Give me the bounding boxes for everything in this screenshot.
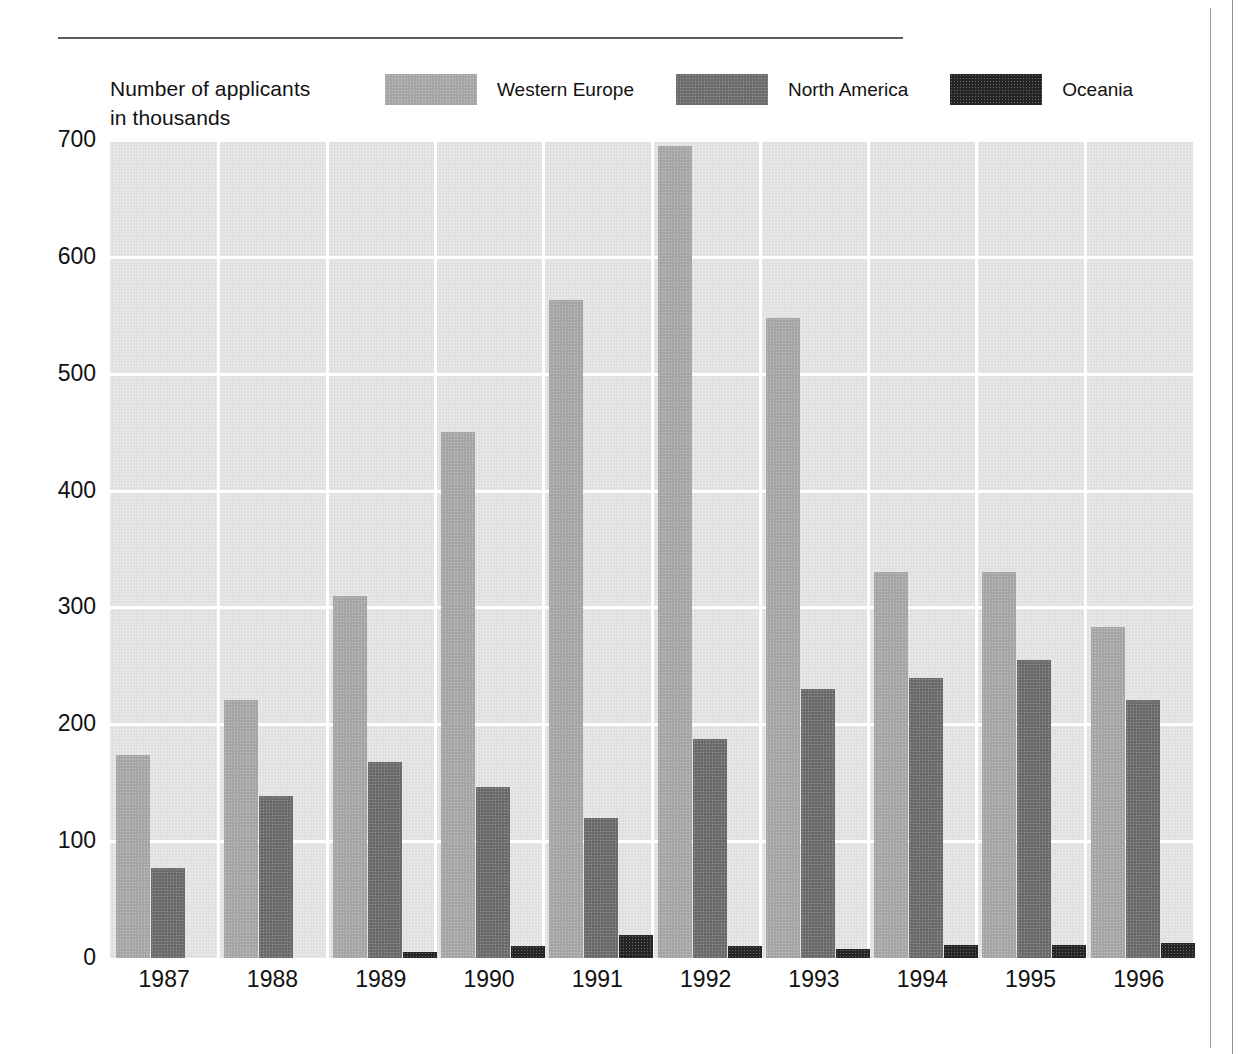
bar-group-1991: [543, 140, 651, 958]
bar-1992-western-europe[interactable]: [658, 146, 692, 958]
y-axis-title-line1: Number of applicants: [110, 74, 410, 103]
bar-1996-oceania[interactable]: [1161, 943, 1195, 958]
page-header-rule: [58, 37, 903, 39]
legend-item-north-america[interactable]: North America: [676, 74, 908, 105]
bar-group-1993: [760, 140, 868, 958]
bar-1990-western-europe[interactable]: [441, 432, 475, 958]
x-tick-label-1995: 1995: [976, 966, 1084, 993]
zero-axis-line: [110, 958, 1193, 960]
legend-swatch-oceania: [950, 74, 1042, 105]
bar-1994-western-europe[interactable]: [874, 572, 908, 958]
bar-1996-western-europe[interactable]: [1091, 627, 1125, 958]
bar-1994-north-america[interactable]: [909, 678, 943, 958]
bar-1988-western-europe[interactable]: [224, 700, 258, 958]
y-tick-label-400: 400: [6, 477, 96, 504]
x-tick-label-1996: 1996: [1085, 966, 1193, 993]
bar-1993-north-america[interactable]: [801, 689, 835, 958]
legend-swatch-north-america: [676, 74, 768, 105]
bar-1989-north-america[interactable]: [368, 762, 402, 958]
bar-1991-north-america[interactable]: [584, 818, 618, 958]
y-tick-label-100: 100: [6, 827, 96, 854]
x-tick-label-1994: 1994: [868, 966, 976, 993]
bar-group-1994: [868, 140, 976, 958]
legend-swatch-western-europe: [385, 74, 477, 105]
bar-1995-western-europe[interactable]: [982, 572, 1016, 958]
x-tick-label-1987: 1987: [110, 966, 218, 993]
bar-1995-north-america[interactable]: [1017, 660, 1051, 958]
bar-1991-oceania[interactable]: [619, 935, 653, 958]
legend-item-oceania[interactable]: Oceania: [950, 74, 1133, 105]
x-tick-label-1989: 1989: [327, 966, 435, 993]
x-tick-label-1992: 1992: [652, 966, 760, 993]
bar-group-1987: [110, 140, 218, 958]
y-tick-label-0: 0: [6, 944, 96, 971]
y-tick-label-200: 200: [6, 710, 96, 737]
bar-1990-oceania[interactable]: [511, 946, 545, 958]
page-edge-line: [1232, 0, 1233, 1054]
bar-1992-north-america[interactable]: [693, 739, 727, 958]
bar-1996-north-america[interactable]: [1126, 700, 1160, 958]
bar-1995-oceania[interactable]: [1052, 945, 1086, 958]
x-tick-label-1988: 1988: [218, 966, 326, 993]
bar-1987-western-europe[interactable]: [116, 755, 150, 958]
y-tick-label-300: 300: [6, 593, 96, 620]
bar-group-1989: [327, 140, 435, 958]
bar-chart: 0100200300400500600700 19871988198919901…: [110, 140, 1193, 958]
legend-label-north-america: North America: [788, 79, 908, 101]
y-tick-label-700: 700: [6, 126, 96, 153]
bar-1992-oceania[interactable]: [728, 946, 762, 958]
bar-1988-north-america[interactable]: [259, 796, 293, 958]
bar-group-1995: [976, 140, 1084, 958]
y-tick-label-500: 500: [6, 360, 96, 387]
bar-group-1996: [1085, 140, 1193, 958]
legend-label-western-europe: Western Europe: [497, 79, 634, 101]
y-tick-label-600: 600: [6, 243, 96, 270]
chart-legend: Western EuropeNorth AmericaOceania: [385, 74, 1175, 105]
bar-1991-western-europe[interactable]: [549, 300, 583, 958]
legend-item-western-europe[interactable]: Western Europe: [385, 74, 634, 105]
page-inner-edge-line: [1210, 8, 1211, 1048]
bar-1990-north-america[interactable]: [476, 787, 510, 958]
bar-1989-western-europe[interactable]: [333, 596, 367, 958]
bar-1987-north-america[interactable]: [151, 868, 185, 958]
bar-1993-oceania[interactable]: [836, 949, 870, 958]
y-axis-title-line2: in thousands: [110, 103, 410, 132]
bar-group-1992: [652, 140, 760, 958]
x-tick-label-1993: 1993: [760, 966, 868, 993]
bar-group-1988: [218, 140, 326, 958]
bar-1994-oceania[interactable]: [944, 945, 978, 958]
bar-1993-western-europe[interactable]: [766, 318, 800, 958]
legend-label-oceania: Oceania: [1062, 79, 1133, 101]
y-axis-title: Number of applicants in thousands: [110, 74, 410, 132]
bar-group-1990: [435, 140, 543, 958]
x-tick-label-1991: 1991: [543, 966, 651, 993]
x-tick-label-1990: 1990: [435, 966, 543, 993]
